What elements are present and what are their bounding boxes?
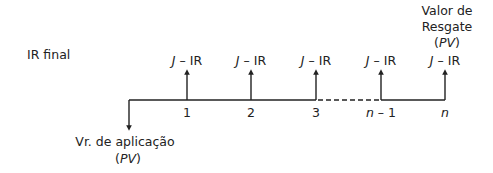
period-3: 3 xyxy=(312,105,320,120)
flow-label-3: J – IR xyxy=(301,53,331,68)
flow-label-2: J – IR xyxy=(236,53,266,68)
cash-flow-diagram xyxy=(0,0,493,173)
final-value-label-line2: Resgate xyxy=(422,19,473,34)
flow-label-n: J – IR xyxy=(430,53,460,68)
ir-final-label: IR final xyxy=(27,47,70,62)
final-value-label-line1: Valor de xyxy=(421,3,472,18)
period-1: 1 xyxy=(183,105,191,120)
outflow-label-line1: Vr. de aplicação xyxy=(75,134,174,149)
flow-label-n-1: J – IR xyxy=(366,53,396,68)
period-n: n xyxy=(441,105,449,120)
final-value-label-line3: (PV) xyxy=(434,35,460,50)
period-2: 2 xyxy=(247,105,255,120)
period-n-1: n – 1 xyxy=(366,105,396,120)
flow-label-1: J – IR xyxy=(172,53,202,68)
outflow-label-line2: (PV) xyxy=(115,151,141,166)
